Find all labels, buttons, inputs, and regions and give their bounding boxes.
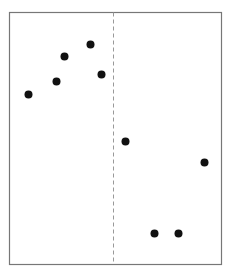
data-point [122, 138, 130, 146]
data-point [87, 41, 95, 49]
data-point [151, 230, 159, 238]
data-point [201, 159, 209, 167]
data-point [25, 91, 33, 99]
data-point [175, 230, 183, 238]
data-points [25, 41, 209, 238]
data-point [98, 71, 106, 79]
plot-frame [10, 13, 222, 265]
scatter-chart [0, 0, 227, 275]
data-point [53, 78, 61, 86]
data-point [61, 53, 69, 61]
